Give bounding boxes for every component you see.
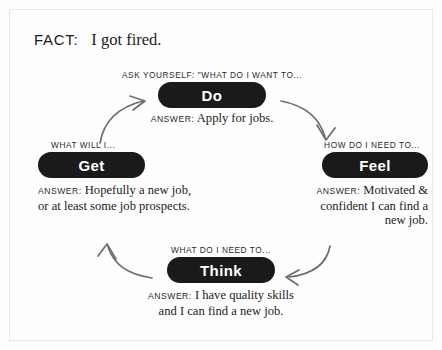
node-get-caption: WHAT WILL I...: [51, 140, 234, 150]
node-get-pill-label: Get: [78, 157, 104, 174]
node-get-answer-line-1: or at least some job prospects.: [38, 199, 234, 214]
node-think-pill[interactable]: Think: [167, 257, 275, 283]
node-feel-answer-line-2: new job.: [268, 213, 428, 228]
node-get-answer: ANSWER: Hopefully a new job, or at least…: [38, 183, 234, 213]
node-get: WHAT WILL I... Get ANSWER: Hopefully a n…: [38, 140, 234, 213]
node-do-answer-line-0: Apply for jobs.: [197, 111, 274, 125]
node-think: WHAT DO I NEED TO... Think ANSWER: I hav…: [112, 245, 330, 318]
node-think-answer-row-0: ANSWER: I have quality skills: [112, 288, 330, 304]
fact-label: FACT:: [34, 31, 78, 48]
node-think-caption: WHAT DO I NEED TO...: [112, 245, 330, 255]
node-think-answer-line-1: and I can find a new job.: [112, 304, 330, 319]
node-do: ASK YOURSELF: "WHAT DO I WANT TO... Do A…: [112, 70, 312, 127]
node-get-answer-row-0: ANSWER: Hopefully a new job,: [38, 183, 234, 199]
diagram-page: FACT: I got fired. ASK YOURSELF: "WHAT D…: [0, 0, 442, 350]
node-think-answer-label: ANSWER:: [148, 291, 192, 301]
node-do-answer: ANSWER: Apply for jobs.: [112, 111, 312, 127]
node-get-pill[interactable]: Get: [38, 152, 145, 178]
node-feel-pill-label: Feel: [359, 157, 391, 174]
node-get-answer-line-0: Hopefully a new job,: [85, 183, 191, 197]
node-get-answer-label: ANSWER:: [38, 186, 82, 196]
fact-line: FACT: I got fired.: [34, 30, 161, 50]
node-do-pill-label: Do: [202, 87, 223, 104]
node-feel: HOW DO I NEED TO... Feel ANSWER: Motivat…: [268, 140, 428, 228]
node-think-answer-line-0: I have quality skills: [195, 288, 294, 302]
node-feel-pill[interactable]: Feel: [322, 152, 428, 178]
node-feel-answer: ANSWER: Motivated & confident I can find…: [268, 183, 428, 228]
node-feel-caption: HOW DO I NEED TO...: [268, 140, 420, 150]
node-think-answer: ANSWER: I have quality skills and I can …: [112, 288, 330, 318]
node-do-pill[interactable]: Do: [158, 82, 266, 108]
node-feel-answer-line-0: Motivated &: [363, 183, 428, 197]
fact-text: I got fired.: [91, 30, 161, 50]
node-feel-answer-line-1: confident I can find a: [268, 199, 428, 214]
node-feel-answer-label: ANSWER:: [317, 186, 361, 196]
node-think-pill-label: Think: [200, 262, 242, 279]
node-feel-answer-row-0: ANSWER: Motivated &: [268, 183, 428, 199]
node-do-caption: ASK YOURSELF: "WHAT DO I WANT TO...: [112, 70, 312, 80]
node-do-answer-label: ANSWER:: [151, 114, 195, 124]
